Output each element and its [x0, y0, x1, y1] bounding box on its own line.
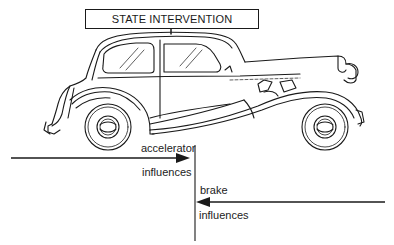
state-intervention-label: STATE INTERVENTION	[112, 13, 232, 25]
brake-arrow-icon	[196, 197, 385, 207]
vintage-car-icon	[44, 29, 364, 150]
brake-influences-label: influences	[199, 209, 249, 221]
car-diagram	[0, 0, 394, 245]
accelerator-label: accelerator	[141, 142, 195, 154]
accelerator-influences-label: influences	[142, 166, 192, 178]
brake-label: brake	[200, 184, 228, 196]
accelerator-arrow-icon	[11, 153, 190, 163]
state-intervention-box: STATE INTERVENTION	[85, 9, 259, 29]
